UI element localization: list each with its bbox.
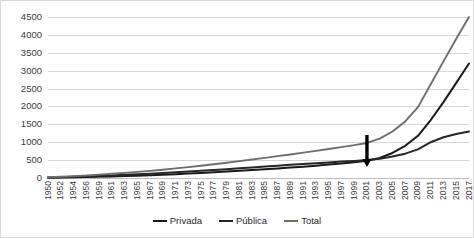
x-axis-tick-labels: 1950195219541956195919611963196519671969… — [48, 179, 469, 215]
y-axis-tick-label: 3000 — [21, 66, 42, 76]
y-axis-tick-label: 0 — [37, 173, 42, 183]
legend-label: Total — [301, 216, 321, 226]
x-axis-tick-label: 1991 — [299, 181, 308, 200]
y-axis-tick-label: 1000 — [21, 137, 42, 147]
x-axis-tick-label: 1967 — [146, 181, 155, 200]
x-axis-tick-label: 1993 — [311, 181, 320, 200]
x-axis-tick-label: 1983 — [248, 181, 257, 200]
x-axis-tick-label: 2001 — [362, 181, 371, 200]
x-axis-tick-label: 1989 — [286, 181, 295, 200]
x-axis-tick-label: 1963 — [120, 181, 129, 200]
x-axis-tick-label: 2003 — [375, 181, 384, 200]
legend-swatch-icon — [284, 220, 298, 222]
x-axis-tick-label: 1995 — [324, 181, 333, 200]
x-axis-tick-label: 1952 — [56, 181, 65, 200]
legend-label: Pública — [236, 216, 267, 226]
x-axis-tick-label: 1999 — [350, 181, 359, 200]
y-axis-tick-label: 1500 — [21, 120, 42, 130]
x-axis-tick-label: 1950 — [44, 181, 53, 200]
plot-area: 050010001500200025003000350040004500 — [48, 17, 469, 178]
y-axis-tick-label: 2500 — [21, 84, 42, 94]
x-axis-tick-label: 1981 — [235, 181, 244, 200]
series-lines — [48, 17, 469, 178]
y-axis-tick-label: 2000 — [21, 102, 42, 112]
x-axis-tick-label: 2009 — [413, 181, 422, 200]
x-axis-tick-label: 2011 — [426, 181, 435, 199]
legend-item-total[interactable]: Total — [284, 216, 321, 226]
x-axis-tick-label: 1954 — [69, 181, 78, 200]
x-axis-tick-label: 2007 — [401, 181, 410, 200]
y-axis-tick-label: 4500 — [21, 12, 42, 22]
legend-label: Privada — [170, 216, 202, 226]
x-axis-tick-label: 1961 — [107, 181, 116, 200]
x-axis-tick-label: 1956 — [82, 181, 91, 200]
x-axis-tick-label: 2005 — [388, 181, 397, 200]
x-axis-tick-label: 1985 — [260, 181, 269, 200]
x-axis-tick-label: 2015 — [452, 181, 461, 200]
chart-figure: 050010001500200025003000350040004500 195… — [0, 0, 474, 238]
x-axis-tick-label: 2013 — [439, 181, 448, 200]
x-axis-tick-label: 1975 — [197, 181, 206, 200]
x-axis-tick-label: 1969 — [158, 181, 167, 200]
x-axis-tick-label: 1979 — [222, 181, 231, 200]
y-axis-tick-label: 3500 — [21, 48, 42, 58]
x-axis-tick-label: 2017 — [465, 181, 474, 200]
legend-item-pública[interactable]: Pública — [219, 216, 267, 226]
x-axis-tick-label: 1965 — [133, 181, 142, 200]
y-axis-tick-label: 500 — [26, 155, 42, 165]
legend-swatch-icon — [153, 220, 167, 222]
x-axis-tick-label: 1997 — [337, 181, 346, 200]
x-axis-tick-label: 1959 — [95, 181, 104, 200]
legend-swatch-icon — [219, 220, 233, 222]
legend-item-privada[interactable]: Privada — [153, 216, 202, 226]
x-axis-tick-label: 1977 — [209, 181, 218, 200]
y-axis-tick-label: 4000 — [21, 30, 42, 40]
chart-legend: PrivadaPúblicaTotal — [1, 216, 473, 226]
x-axis-tick-label: 1971 — [171, 181, 180, 200]
x-axis-tick-label: 1987 — [273, 181, 282, 200]
x-axis-tick-label: 1973 — [184, 181, 193, 200]
